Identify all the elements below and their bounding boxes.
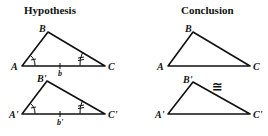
triangle-edges (168, 82, 250, 114)
hypothesis-triangle-abc: A B C b (10, 23, 115, 78)
conclusion-triangle-abc: A B C (156, 23, 260, 72)
congruence-symbol: ≅ (212, 79, 223, 94)
vertex-label-b: B (184, 23, 192, 34)
angle-tick-a-prime (31, 107, 36, 108)
vertex-label-a: A (10, 61, 18, 72)
angle-arc-c (80, 53, 83, 67)
conclusion-triangle-abc-prime: A' B' C' (154, 74, 263, 120)
vertex-label-c-prime: C' (108, 109, 118, 120)
angle-tick-c-2 (78, 60, 84, 61)
triangle-edges (168, 32, 250, 66)
vertex-label-b-prime: B' (182, 74, 193, 85)
angle-tick-c-prime-2 (78, 108, 84, 109)
vertex-label-c: C (108, 61, 115, 72)
vertex-label-b-prime: B' (36, 73, 47, 84)
vertex-label-a-prime: A' (154, 109, 165, 120)
vertex-label-a-prime: A' (8, 109, 19, 120)
side-label-b: b (58, 69, 62, 78)
hypothesis-triangle-abc-prime: A' B' C' b' (8, 73, 118, 127)
vertex-label-b: B (38, 23, 46, 34)
vertex-label-c-prime: C' (253, 109, 263, 120)
angle-tick-c-prime-1 (78, 105, 84, 106)
angle-tick-c-1 (78, 57, 84, 58)
angle-arc-c-prime (80, 101, 83, 115)
vertex-label-a: A (156, 61, 164, 72)
angle-arc-a-prime (31, 104, 36, 115)
diagram-canvas: A B C b A' B' C' b' A B C ≅ A' B' C' (0, 0, 268, 136)
angle-tick-a (31, 59, 36, 60)
angle-arc-a (31, 56, 36, 67)
vertex-label-c: C (253, 61, 260, 72)
side-label-b-prime: b' (57, 118, 64, 127)
